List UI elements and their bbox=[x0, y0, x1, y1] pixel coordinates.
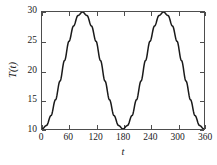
data-curve-canvas bbox=[42, 12, 204, 129]
series-line-T-of-t bbox=[42, 12, 204, 129]
x-tick-label-120: 120 bbox=[89, 133, 103, 143]
y-tick-label-25: 25 bbox=[28, 36, 38, 46]
x-tick-label-300: 300 bbox=[171, 133, 185, 143]
chart-figure: T(t) t 30 25 20 15 10 0 60 120 180 240 3… bbox=[0, 0, 217, 165]
plot-area bbox=[41, 11, 205, 130]
y-tick-label-20: 20 bbox=[28, 66, 38, 76]
x-tick-top-360 bbox=[205, 12, 206, 16]
y-tick-left-10 bbox=[42, 130, 46, 131]
y-axis-label: T(t) bbox=[8, 62, 19, 78]
y-tick-label-10: 10 bbox=[28, 125, 38, 135]
x-tick-label-180: 180 bbox=[116, 133, 130, 143]
x-tick-label-240: 240 bbox=[143, 133, 157, 143]
x-tick-label-60: 60 bbox=[64, 133, 74, 143]
y-tick-right-10 bbox=[200, 130, 204, 131]
x-axis-label: t bbox=[122, 147, 125, 158]
y-tick-label-30: 30 bbox=[28, 6, 38, 16]
y-tick-label-15: 15 bbox=[28, 96, 38, 106]
x-tick-label-360: 360 bbox=[198, 133, 212, 143]
x-tick-bottom-360 bbox=[205, 125, 206, 129]
x-tick-label-0: 0 bbox=[39, 133, 44, 143]
